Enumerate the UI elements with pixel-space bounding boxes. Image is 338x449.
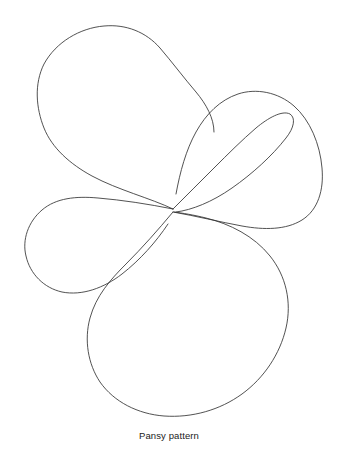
upper-right-petal — [173, 113, 293, 212]
pansy-pattern-drawing — [0, 8, 338, 423]
mid-left-petal — [25, 197, 173, 293]
right-petal — [173, 91, 322, 228]
bottom-petal — [87, 212, 288, 416]
figure-page: Pansy pattern — [0, 0, 338, 449]
upper-left-petal — [37, 26, 214, 209]
figure-caption: Pansy pattern — [0, 430, 338, 441]
running-head — [0, 0, 338, 3]
petal-group — [25, 26, 323, 417]
